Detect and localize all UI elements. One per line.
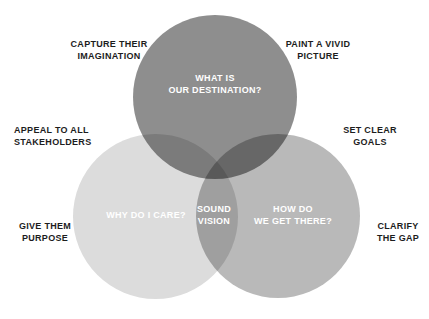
venn-outer-label-clarify-the-gap: CLARIFY THE GAP	[368, 221, 428, 244]
venn-label-what-is-our-destination: WHAT IS OUR DESTINATION?	[140, 73, 290, 96]
venn-outer-label-set-clear-goals: SET CLEAR GOALS	[325, 125, 415, 148]
venn-outer-label-paint-a-vivid-picture: PAINT A VIVID PICTURE	[263, 39, 373, 62]
venn-outer-label-give-them-purpose: GIVE THEM PURPOSE	[2, 221, 88, 244]
venn-diagram: WHAT IS OUR DESTINATION? WHY DO I CARE? …	[0, 0, 429, 319]
venn-outer-label-appeal-to-all-stakeholders: APPEAL TO ALL STAKEHOLDERS	[14, 125, 138, 148]
venn-outer-label-capture-their-imagination: CAPTURE THEIR IMAGINATION	[50, 39, 168, 62]
venn-label-sound-vision: SOUND VISION	[188, 204, 240, 227]
venn-label-how-do-we-get-there: HOW DO WE GET THERE?	[240, 204, 346, 227]
